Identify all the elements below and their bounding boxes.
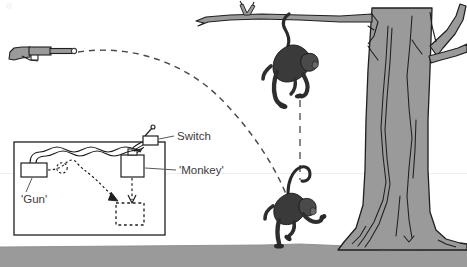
- hanging-monkey-face: [312, 62, 318, 69]
- tree-twig-left-fill: [240, 4, 255, 15]
- tree: [196, 1, 467, 250]
- rifle-muzzle-origin: [71, 48, 76, 53]
- monkey-hunter-figure: Switch 'Monkey' 'Gun': [0, 0, 467, 267]
- scene-illustration: Switch 'Monkey' 'Gun': [0, 0, 467, 267]
- hanging-monkey-hindleg-2: [263, 66, 271, 79]
- inset-monkey-box: [121, 155, 144, 177]
- falling-monkey-foot-1: [274, 243, 284, 248]
- falling-monkey-hindleg-2: [265, 206, 273, 219]
- inset-switch-knob: [151, 125, 155, 129]
- inset-gun-box: [21, 163, 47, 177]
- inset-switch-box: [143, 136, 158, 145]
- rifle-trigger-guard: [31, 55, 38, 60]
- rifle-receiver: [29, 47, 51, 55]
- falling-monkey-face: [310, 208, 316, 215]
- inset-leader-switch: [159, 136, 174, 139]
- falling-monkey-tail: [288, 167, 310, 193]
- inset-switch-lever: [145, 128, 152, 136]
- rifle: [9, 47, 77, 61]
- falling-monkey-foreleg-1: [303, 214, 322, 222]
- falling-monkey-hindleg-1: [278, 220, 280, 243]
- hanging-monkey: [263, 14, 318, 110]
- scan-artifact: [7, 4, 12, 9]
- inset-diagram: Switch 'Monkey' 'Gun': [14, 125, 224, 235]
- label-monkey: 'Monkey': [179, 164, 224, 176]
- rifle-barrel: [50, 49, 72, 54]
- falling-monkey: [265, 167, 327, 249]
- label-gun: 'Gun': [21, 193, 47, 205]
- label-switch: Switch: [177, 130, 211, 142]
- tree-trunk: [338, 8, 467, 250]
